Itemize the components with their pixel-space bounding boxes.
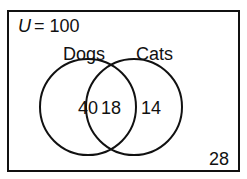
neither-value: 28 (209, 149, 229, 169)
venn-diagram: U = 100 Dogs Cats 40 18 14 28 (0, 0, 247, 179)
dogs-label: Dogs (63, 44, 105, 64)
cats-only-value: 14 (141, 98, 161, 118)
intersection-value: 18 (101, 98, 121, 118)
universe-variable: U (18, 16, 32, 36)
dogs-only-value: 40 (78, 98, 98, 118)
cats-label: Cats (136, 44, 173, 64)
universe-value: = 100 (34, 16, 80, 36)
